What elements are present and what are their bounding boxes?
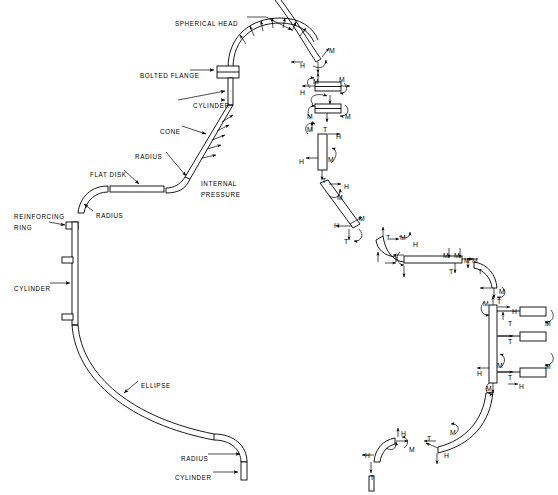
assembly-label-reinforcing-ring-2: RING xyxy=(14,224,32,231)
load-symbol-h-34: H xyxy=(477,370,482,377)
load-symbol-m-37: M xyxy=(545,363,551,370)
load-symbol-t-8: T xyxy=(323,126,327,133)
load-symbol-t-31: T xyxy=(508,320,512,327)
vessel-assembly-view xyxy=(49,17,318,480)
assembly-label-bolted-flange: BOLTED FLANGE xyxy=(140,72,199,79)
load-symbol-m-35: M xyxy=(497,362,503,369)
load-symbol-m-38: M xyxy=(486,385,492,392)
assembly-label-radius-disk: RADIUS xyxy=(96,212,123,219)
load-symbol-h-39: H xyxy=(519,383,524,390)
leader-lines xyxy=(49,17,292,472)
load-symbol-t-42: T xyxy=(427,435,431,442)
fb-flange-ring xyxy=(315,104,341,113)
fb-spherical-head xyxy=(275,0,321,62)
load-symbol-m-0: M xyxy=(329,47,335,54)
assembly-label-cone: CONE xyxy=(160,128,181,135)
load-symbol-m-22: M xyxy=(454,252,460,259)
load-symbol-h-40: H xyxy=(401,430,406,437)
load-symbol-t-36: T xyxy=(508,374,512,381)
assembly-label-radius-lower: RADIUS xyxy=(181,455,208,462)
assembly-label-internal-pressure: INTERNAL xyxy=(201,180,237,187)
leader-cone xyxy=(182,126,206,134)
load-symbol-h-9: H xyxy=(336,133,341,140)
assembly-label-radius-cone: RADIUS xyxy=(135,153,162,160)
assembly-label-ellipse: ELLIPSE xyxy=(141,382,171,389)
radius-knuckle-disk xyxy=(78,186,108,213)
load-symbol-m-28: M xyxy=(483,300,489,307)
cone-part xyxy=(185,105,233,179)
assembly-label-spherical-head: SPHERICAL HEAD xyxy=(175,20,238,27)
leader-radius-cone xyxy=(166,152,186,176)
load-symbol-h-44: H xyxy=(365,452,370,459)
fb-main-cylinder xyxy=(489,305,546,383)
load-symbol-m-2: M xyxy=(313,78,319,85)
radius-knuckle-upper xyxy=(166,177,190,193)
load-symbol-m-24: M xyxy=(464,257,470,264)
assembly-label-flat-disk: FLAT DISK xyxy=(90,171,127,178)
lower-cylinder-part xyxy=(241,462,247,480)
leader-cylinder-upper xyxy=(178,91,225,100)
fb-bottom-radius xyxy=(374,438,395,462)
upper-cylinder-part xyxy=(228,78,233,105)
load-symbol-m-3: M xyxy=(339,76,345,83)
load-symbol-h-15: H xyxy=(334,222,339,229)
load-symbol-m-14: M xyxy=(337,194,343,201)
assembly-label-reinforcing-ring: REINFORCING xyxy=(14,213,65,220)
load-symbol-h-13: H xyxy=(344,183,349,190)
load-symbol-h-20: H xyxy=(413,241,418,248)
pressure-arrows-cone xyxy=(202,115,233,158)
assembly-label-cylinder-lower: CYLINDER xyxy=(175,474,212,481)
load-symbol-t-26: T xyxy=(478,268,482,275)
main-cylinder-part xyxy=(62,222,78,325)
load-symbol-t-23: T xyxy=(449,268,453,275)
load-symbol-h-45: H xyxy=(444,452,449,459)
assembly-label-cylinder-main: CYLINDER xyxy=(14,285,51,292)
load-symbol-t-33: T xyxy=(508,338,512,345)
load-symbol-m-16: M xyxy=(359,215,365,222)
leader-reinforcing-ring xyxy=(49,222,65,225)
load-symbol-t-17: T xyxy=(344,238,348,245)
load-symbol-m-21: M xyxy=(443,252,449,259)
fb-cone-loads xyxy=(329,184,362,241)
leader-ellipse xyxy=(124,381,138,393)
load-symbol-m-11: M xyxy=(328,156,334,163)
load-symbol-t-46: T xyxy=(370,474,374,481)
load-symbol-m-19: M xyxy=(400,234,406,241)
load-symbol-m-7: M xyxy=(307,126,313,133)
diagram-canvas: SPHERICAL HEADBOLTED FLANGECYLINDERCONER… xyxy=(0,0,558,495)
assembly-label-cylinder-upper: CYLINDER xyxy=(193,102,230,109)
load-symbol-m-32: M xyxy=(545,320,551,327)
fb-ellipse-head xyxy=(438,392,493,453)
load-symbol-m-27: M xyxy=(499,288,505,295)
load-symbol-t-18: T xyxy=(386,234,390,241)
load-symbol-m-43: M xyxy=(450,429,456,436)
radius-knuckle-lower xyxy=(214,434,247,462)
load-symbol-m-25: M xyxy=(472,257,478,264)
fb-disk-knuckle xyxy=(474,262,497,288)
load-symbol-m-6: M xyxy=(345,113,351,120)
assembly-label-internal-pressure-2: PRESSURE xyxy=(201,191,240,198)
load-symbol-m-5: M xyxy=(307,113,313,120)
fb-upper-cylinder xyxy=(318,134,327,170)
bolted-flange-part xyxy=(217,66,239,78)
load-symbol-h-4: H xyxy=(300,89,305,96)
flat-disk-part xyxy=(110,186,164,192)
vessel-drawing xyxy=(0,0,558,495)
load-symbol-m-41: M xyxy=(409,446,415,453)
load-symbol-t-12: T xyxy=(322,177,326,184)
fb-cone xyxy=(320,180,360,228)
load-symbol-t-29: T xyxy=(497,298,501,305)
load-symbol-h-30: H xyxy=(512,308,517,315)
load-symbol-h-1: H xyxy=(300,62,305,69)
load-symbol-h-10: H xyxy=(299,158,304,165)
